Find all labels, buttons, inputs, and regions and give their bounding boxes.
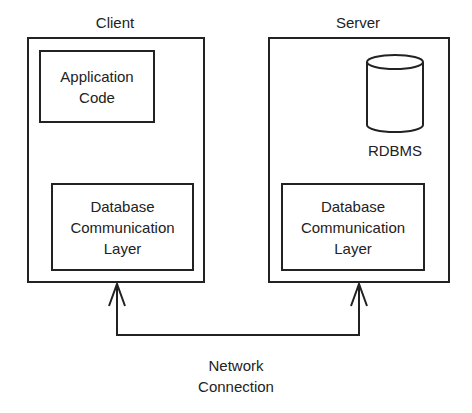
database-cylinder-icon	[367, 55, 423, 132]
network-connection-arrow	[109, 284, 367, 335]
diagram-shapes	[0, 0, 472, 413]
network-line-2: Connection	[176, 376, 296, 397]
network-line-1: Network	[176, 355, 296, 376]
network-connection-label: Network Connection	[176, 355, 296, 397]
